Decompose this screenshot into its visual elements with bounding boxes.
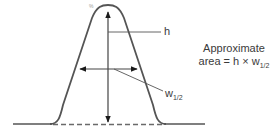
peak-marker: % bbox=[89, 3, 93, 9]
width-label-sub: 1/2 bbox=[173, 94, 183, 101]
area-formula-sub: 1/2 bbox=[260, 62, 270, 69]
area-formula-line1: Approximate bbox=[198, 42, 270, 55]
area-formula: Approximate area = h × w1/2 bbox=[198, 42, 270, 72]
width-label-main: w bbox=[165, 87, 173, 99]
area-formula-text: area = h × w bbox=[199, 55, 260, 67]
width-leader bbox=[114, 69, 163, 91]
width-label: w1/2 bbox=[165, 87, 183, 101]
height-label: h bbox=[164, 25, 170, 37]
area-formula-line2: area = h × w1/2 bbox=[198, 55, 270, 72]
